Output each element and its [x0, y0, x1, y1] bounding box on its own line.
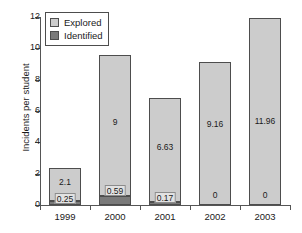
- chart-legend: Explored Identified: [45, 12, 109, 46]
- y-tick-label: 12: [16, 12, 40, 21]
- y-axis-title: Incidents per student: [20, 33, 31, 183]
- bar-label-identified: 0: [212, 190, 219, 201]
- legend-item-identified: Identified: [50, 29, 103, 42]
- bar-segment-explored: [199, 62, 231, 206]
- bar-label-explored: 2.1: [58, 177, 72, 188]
- x-tick-mark: [90, 205, 91, 210]
- bar-segment-identified: [99, 196, 131, 205]
- x-tick-mark: [240, 205, 241, 210]
- bar-label-identified: 0.59: [105, 185, 126, 196]
- y-tick-12: 12: [0, 17, 40, 18]
- bar-group-2001: 6.63 0.17: [149, 98, 181, 205]
- x-tick-mark: [140, 205, 141, 210]
- bar-label-identified: 0.17: [155, 192, 176, 203]
- x-tick-mark: [40, 205, 41, 210]
- dark-gray-swatch-icon: [50, 31, 59, 40]
- x-tick-label-2003: 2003: [240, 211, 290, 222]
- x-tick-mark: [290, 205, 291, 210]
- bar-label-explored: 9.16: [206, 119, 225, 130]
- x-axis-line: [40, 205, 290, 206]
- bar-label-explored: 6.63: [156, 142, 175, 153]
- bar-label-explored: 11.96: [254, 116, 277, 127]
- bar-group-2002: 9.16 0: [199, 62, 231, 206]
- bar-group-1999: 2.1 0.25: [49, 168, 81, 205]
- bar-group-2003: 11.96 0: [249, 18, 281, 205]
- bar-segment-explored: [249, 18, 281, 205]
- y-tick-label: 0: [16, 200, 40, 209]
- x-tick-label-2001: 2001: [140, 211, 190, 222]
- x-tick-mark: [190, 205, 191, 210]
- legend-item-explored: Explored: [50, 16, 103, 29]
- x-tick-label-1999: 1999: [40, 211, 90, 222]
- legend-label: Explored: [64, 17, 102, 28]
- bar-label-identified: 0.25: [55, 193, 76, 204]
- x-tick-label-2002: 2002: [190, 211, 240, 222]
- x-tick-label-2000: 2000: [90, 211, 140, 222]
- legend-label: Identified: [64, 30, 103, 41]
- bar-label-identified: 0: [262, 190, 269, 201]
- y-tick-0: 0: [0, 205, 40, 206]
- bar-label-explored: 9: [112, 117, 119, 128]
- bar-chart: 12 10 8 6 4 2 0 Incidents per student 19…: [0, 0, 302, 233]
- y-axis-line: [40, 17, 41, 206]
- bar-group-2000: 9 0.59: [99, 55, 131, 205]
- light-gray-swatch-icon: [50, 18, 59, 27]
